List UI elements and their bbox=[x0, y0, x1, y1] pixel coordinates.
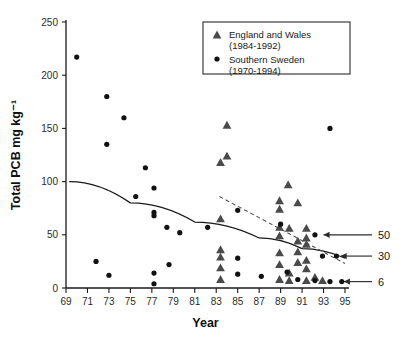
annotation-layer: 50306 bbox=[324, 229, 391, 288]
legend-label-1: Southern Sweden bbox=[229, 54, 305, 65]
data-point-triangle bbox=[216, 275, 225, 283]
data-point-circle bbox=[74, 55, 79, 60]
y-tick-label-0: 0 bbox=[52, 283, 58, 294]
chart-figure: 0501001502002506971737577798183858789919… bbox=[0, 0, 415, 341]
data-point-circle bbox=[235, 272, 240, 277]
x-tick-label-79: 79 bbox=[168, 296, 180, 307]
data-point-triangle bbox=[284, 180, 293, 188]
data-point-triangle bbox=[223, 152, 232, 160]
x-tick-label-87: 87 bbox=[254, 296, 266, 307]
data-point-triangle bbox=[216, 214, 225, 222]
y-tick-label-50: 50 bbox=[47, 229, 59, 240]
legend-sublabel-1: (1970-1994) bbox=[229, 65, 281, 76]
data-point-circle bbox=[106, 273, 111, 278]
x-tick-label-95: 95 bbox=[339, 296, 351, 307]
x-tick-label-75: 75 bbox=[125, 296, 137, 307]
data-point-triangle bbox=[293, 258, 302, 266]
data-point-circle bbox=[284, 269, 289, 274]
annotation-label-50: 50 bbox=[378, 229, 390, 241]
data-point-circle bbox=[166, 262, 171, 267]
data-point-circle bbox=[93, 259, 98, 264]
data-point-triangle bbox=[285, 224, 294, 232]
annotation-arrow-head-50 bbox=[324, 232, 330, 238]
data-point-circle bbox=[327, 126, 332, 131]
data-point-triangle bbox=[223, 121, 232, 129]
y-tick-label-150: 150 bbox=[41, 123, 58, 134]
data-point-triangle bbox=[285, 276, 294, 284]
data-point-circle bbox=[327, 279, 332, 284]
series-southern-sweden bbox=[74, 40, 344, 287]
data-point-triangle bbox=[216, 253, 225, 261]
data-point-circle bbox=[312, 278, 317, 283]
chart-legend: England and Wales(1984-1992)Southern Swe… bbox=[203, 22, 350, 76]
x-tick-label-77: 77 bbox=[146, 296, 158, 307]
x-tick-label-91: 91 bbox=[297, 296, 309, 307]
data-point-triangle bbox=[275, 248, 284, 256]
data-point-triangle bbox=[216, 263, 225, 271]
x-tick-label-93: 93 bbox=[318, 296, 330, 307]
data-point-circle bbox=[164, 225, 169, 230]
x-tick-label-81: 81 bbox=[189, 296, 201, 307]
data-point-circle bbox=[235, 208, 240, 213]
data-point-triangle bbox=[302, 256, 311, 264]
data-point-triangle bbox=[302, 276, 311, 284]
data-point-circle bbox=[177, 230, 182, 235]
annotation-arrow-head-6 bbox=[344, 279, 350, 285]
data-point-circle bbox=[334, 253, 339, 258]
legend-sublabel-0: (1984-1992) bbox=[229, 40, 281, 51]
data-point-circle bbox=[205, 225, 210, 230]
data-point-circle bbox=[151, 271, 156, 276]
y-axis-title: Total PCB mg kg⁻¹ bbox=[9, 100, 23, 210]
annotation-label-6: 6 bbox=[378, 276, 384, 288]
data-point-triangle bbox=[275, 260, 284, 268]
data-point-circle bbox=[295, 277, 300, 282]
x-tick-label-69: 69 bbox=[60, 296, 72, 307]
data-point-circle bbox=[133, 194, 138, 199]
x-tick-label-73: 73 bbox=[103, 296, 115, 307]
trendline-layer bbox=[69, 182, 345, 264]
data-point-triangle bbox=[275, 275, 284, 283]
data-point-circle bbox=[104, 142, 109, 147]
data-point-circle bbox=[121, 115, 126, 120]
x-tick-label-89: 89 bbox=[275, 296, 287, 307]
x-tick-label-85: 85 bbox=[232, 296, 244, 307]
data-point-triangle bbox=[302, 264, 311, 272]
data-point-triangle bbox=[302, 224, 311, 232]
data-point-circle bbox=[104, 94, 109, 99]
data-point-triangle bbox=[275, 231, 284, 239]
x-tick-label-71: 71 bbox=[82, 296, 94, 307]
data-point-triangle bbox=[275, 196, 284, 204]
data-point-circle bbox=[320, 253, 325, 258]
data-point-circle bbox=[312, 232, 317, 237]
data-point-triangle bbox=[216, 245, 225, 253]
data-point-circle bbox=[259, 274, 264, 279]
data-point-triangle bbox=[318, 276, 327, 284]
data-point-circle bbox=[339, 279, 344, 284]
data-point-circle bbox=[151, 281, 156, 286]
data-point-triangle bbox=[275, 205, 284, 213]
data-point-circle bbox=[151, 185, 156, 190]
data-point-circle bbox=[278, 222, 283, 227]
annotation-label-30: 30 bbox=[378, 250, 390, 262]
data-point-circle bbox=[235, 256, 240, 261]
y-tick-label-200: 200 bbox=[41, 70, 58, 81]
legend-label-0: England and Wales bbox=[229, 29, 311, 40]
data-point-circle bbox=[151, 213, 156, 218]
scatter-plot: 0501001502002506971737577798183858789919… bbox=[0, 0, 415, 341]
data-point-circle bbox=[143, 165, 148, 170]
data-point-triangle bbox=[293, 237, 302, 245]
legend-marker-circle bbox=[214, 56, 219, 61]
y-tick-label-100: 100 bbox=[41, 176, 58, 187]
y-tick-label-250: 250 bbox=[41, 17, 58, 28]
x-tick-label-83: 83 bbox=[211, 296, 223, 307]
data-point-triangle bbox=[293, 198, 302, 206]
x-axis-title: Year bbox=[192, 316, 219, 330]
